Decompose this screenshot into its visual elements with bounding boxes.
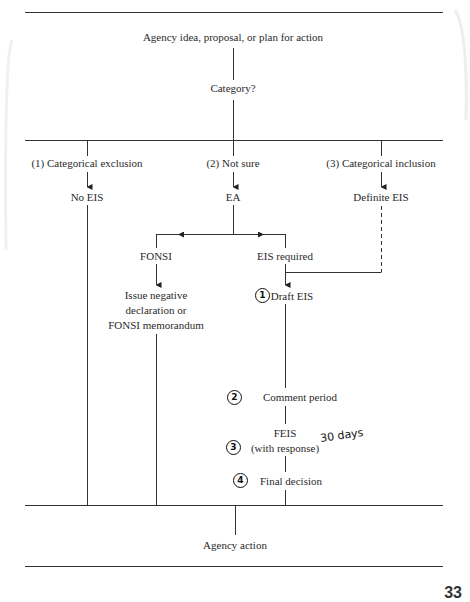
step-4-circle-icon: 4 [233,473,248,488]
node-categorical-exclusion: (1) Categorical exclusion [31,157,142,170]
node-categorical-inclusion: (3) Categorical inclusion [326,157,435,170]
step-1-circle-icon: 1 [255,288,270,303]
node-feis-sub: (with response) [251,442,319,455]
node-start: Agency idea, proposal, or plan for actio… [143,31,323,44]
node-not-sure: (2) Not sure [206,157,259,170]
node-category: Category? [210,82,255,95]
node-fonsi: FONSI [140,250,172,263]
node-issue-line3: FONSI memorandum [108,319,204,332]
page-number: 33 [444,584,462,602]
node-comment-period: Comment period [263,391,337,404]
node-definite-eis: Definite EIS [353,191,408,204]
step-2-circle-icon: 2 [227,390,242,405]
step-3-circle-icon: 3 [226,440,241,455]
node-feis: FEIS [274,427,297,440]
node-ea: EA [226,191,241,204]
node-issue-line1: Issue negative [125,289,188,302]
node-draft-eis: Draft EIS [271,290,313,303]
node-no-eis: No EIS [71,191,104,204]
node-eis-required: EIS required [257,250,313,263]
node-agency-action: Agency action [203,539,267,552]
node-final-decision: Final decision [260,475,322,488]
node-issue-line2: declaration or [126,304,187,317]
